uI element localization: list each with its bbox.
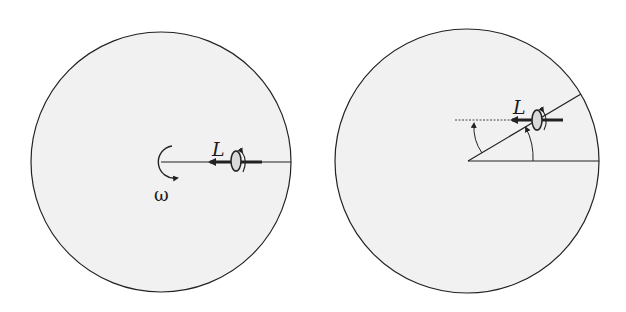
left-panel: L ω [31,32,291,292]
diagram-stage: L ω L [0,0,626,312]
gyroscope-diagram: L ω L [0,0,626,312]
gyroscope-wheel [231,151,241,171]
label-L-left: L [211,138,225,160]
label-L-right: L [512,96,526,118]
gyroscope-wheel-right [532,110,542,130]
right-panel: L [335,29,599,293]
label-omega: ω [154,184,169,205]
